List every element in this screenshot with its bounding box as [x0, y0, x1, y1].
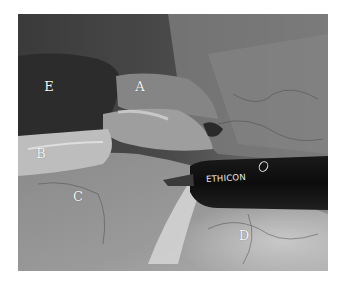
- label-b: B: [36, 147, 46, 160]
- surgical-photo: ETHICON: [18, 14, 328, 271]
- photo-illustration: [18, 14, 328, 271]
- label-a: A: [135, 80, 144, 93]
- instrument-brand-text: ETHICON: [206, 172, 246, 184]
- label-d: D: [239, 229, 249, 242]
- label-e: E: [44, 80, 54, 93]
- label-c: C: [73, 190, 83, 203]
